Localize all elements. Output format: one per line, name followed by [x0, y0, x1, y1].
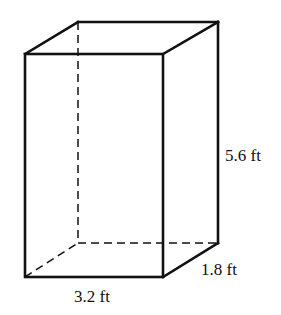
- height-label: 5.6 ft: [225, 146, 261, 165]
- top-left-depth-edge: [25, 22, 78, 54]
- top-right-depth-edge: [163, 22, 218, 54]
- hidden-left-depth-edge: [25, 243, 78, 277]
- visible-edges: [25, 22, 218, 277]
- width-label: 3.2 ft: [74, 287, 110, 306]
- depth-label: 1.8 ft: [201, 260, 237, 279]
- rectangular-prism-diagram: 5.6 ft 1.8 ft 3.2 ft: [0, 0, 281, 315]
- hidden-edges: [25, 22, 218, 277]
